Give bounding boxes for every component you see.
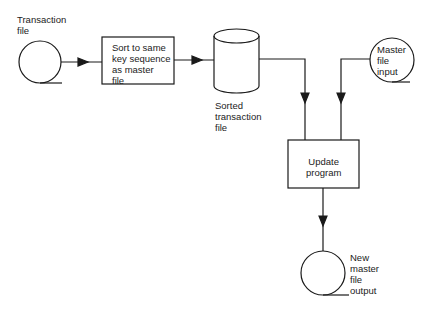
edge-sorted-file-to-update [259,59,309,140]
edge-master-input-to-update [337,59,370,140]
sort-process-label: Sort to same key sequence as master file [112,42,171,86]
new-master-reel-icon [301,251,349,295]
edge-sort-to-sorted-file [174,56,214,64]
sorted-file-label: Sorted transaction file [215,100,261,133]
sorted-file-cylinder-icon [214,29,259,93]
update-program-label: Update program [306,156,341,178]
master-input-label: Master file input [377,44,406,77]
transaction-file-label: Transaction file [17,14,66,36]
edge-transaction-to-sort [61,58,102,66]
transaction-file-reel-icon [19,41,62,83]
edge-update-to-new-master [319,188,327,251]
new-master-label: New master file output [350,252,379,296]
